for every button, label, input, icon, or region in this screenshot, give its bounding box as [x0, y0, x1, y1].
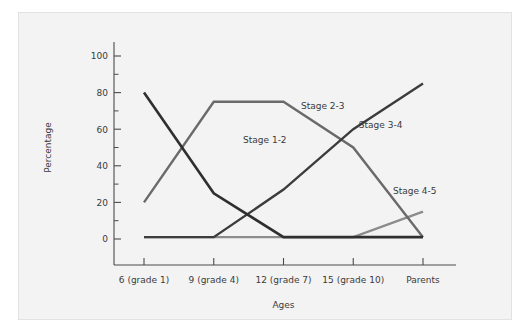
y-tick-label: 60 [97, 125, 109, 135]
figure-container: 0204060801006 (grade 1)9 (grade 4)12 (gr… [0, 0, 528, 332]
series-label-stage-3-4: Stage 3-4 [359, 120, 403, 130]
y-tick-label: 0 [102, 234, 108, 244]
series-line-stage-3-4 [144, 83, 423, 237]
y-tick-label: 20 [97, 198, 109, 208]
series-line-stage-1-2 [144, 93, 423, 238]
series-group [144, 83, 423, 237]
x-category-label: 6 (grade 1) [119, 275, 169, 285]
axes-group [114, 42, 456, 265]
y-tick-label: 40 [97, 161, 109, 171]
series-label-stage-4-5: Stage 4-5 [393, 186, 437, 196]
x-category-label: 9 (grade 4) [189, 275, 239, 285]
y-tick-label: 100 [91, 51, 108, 61]
line-chart: 0204060801006 (grade 1)9 (grade 4)12 (gr… [19, 13, 513, 321]
chart-plate: 0204060801006 (grade 1)9 (grade 4)12 (gr… [18, 12, 512, 320]
series-line-stage-4-5 [144, 212, 423, 238]
series-label-stage-2-3: Stage 2-3 [301, 101, 345, 111]
x-category-label: 15 (grade 10) [322, 275, 384, 285]
y-tick-label: 80 [97, 88, 109, 98]
x-category-label: Parents [406, 275, 440, 285]
series-label-stage-1-2: Stage 1-2 [243, 135, 287, 145]
x-category-label: 12 (grade 7) [255, 275, 311, 285]
x-axis-title: Ages [272, 300, 294, 310]
y-axis-title: Percentage [43, 122, 53, 173]
